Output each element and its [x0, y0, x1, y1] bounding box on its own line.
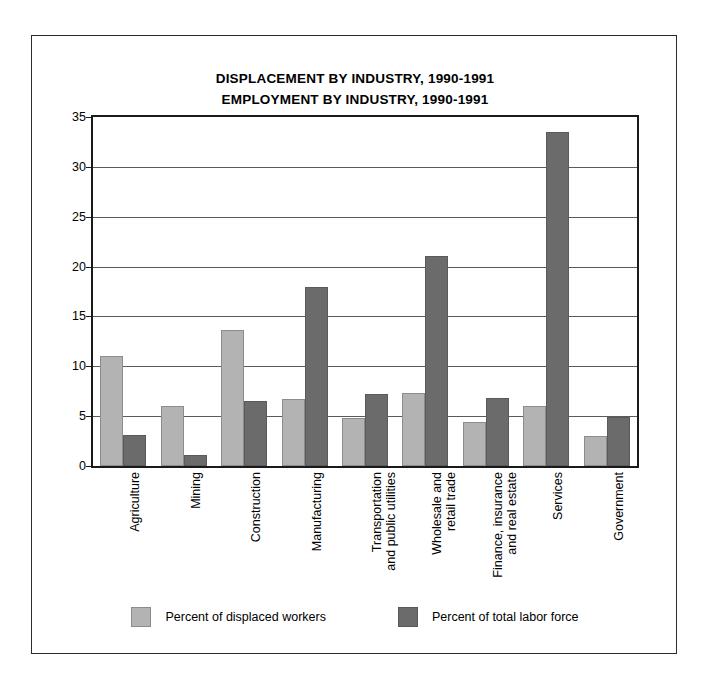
- y-axis: 05101520253035: [48, 115, 86, 468]
- bar[interactable]: [584, 436, 607, 466]
- bar[interactable]: [244, 401, 267, 466]
- bar[interactable]: [123, 435, 146, 466]
- legend-label: Percent of total labor force: [432, 610, 579, 624]
- bar[interactable]: [607, 417, 630, 466]
- legend-item[interactable]: Percent of total labor force: [398, 607, 579, 627]
- y-tick-label: 30: [56, 161, 86, 173]
- chart-title-block: DISPLACEMENT BY INDUSTRY, 1990-1991 EMPL…: [32, 68, 678, 110]
- bar-group: [221, 117, 267, 466]
- x-tick-label: Wholesale and retail trade: [430, 472, 458, 602]
- x-tick-label: Government: [612, 472, 626, 602]
- chart-outer-frame: DISPLACEMENT BY INDUSTRY, 1990-1991 EMPL…: [31, 35, 677, 654]
- bar[interactable]: [161, 406, 184, 466]
- bar[interactable]: [342, 418, 365, 466]
- x-tick-label: Construction: [249, 472, 263, 602]
- legend-item[interactable]: Percent of displaced workers: [131, 607, 326, 627]
- bar[interactable]: [100, 356, 123, 466]
- bar[interactable]: [221, 330, 244, 466]
- x-axis-labels: AgricultureMiningConstructionManufacturi…: [91, 472, 639, 602]
- y-tick-label: 20: [56, 261, 86, 273]
- bar-group: [463, 117, 509, 466]
- bar[interactable]: [305, 287, 328, 466]
- y-tick-label: 35: [56, 111, 86, 123]
- y-tick-label: 0: [56, 460, 86, 472]
- bar[interactable]: [365, 394, 388, 466]
- chart-page: DISPLACEMENT BY INDUSTRY, 1990-1991 EMPL…: [0, 0, 711, 684]
- legend-swatch-icon: [398, 607, 418, 627]
- bar[interactable]: [463, 422, 486, 466]
- y-tick-label: 5: [56, 410, 86, 422]
- x-tick-label: Transportation and public utilities: [370, 472, 398, 602]
- y-tick-label: 25: [56, 211, 86, 223]
- x-tick-label: Services: [551, 472, 565, 602]
- x-tick-label: Finance, insurance and real estate: [491, 472, 519, 602]
- bar[interactable]: [425, 256, 448, 466]
- x-tick-label: Manufacturing: [310, 472, 324, 602]
- bar-group: [342, 117, 388, 466]
- plot-frame: [91, 115, 639, 468]
- bar[interactable]: [402, 393, 425, 466]
- bar-group: [161, 117, 207, 466]
- y-tick-label: 10: [56, 360, 86, 372]
- chart-subtitle: EMPLOYMENT BY INDUSTRY, 1990-1991: [32, 89, 678, 110]
- bar[interactable]: [486, 398, 509, 466]
- bar-group: [100, 117, 146, 466]
- bar-group: [584, 117, 630, 466]
- y-tick-label: 15: [56, 310, 86, 322]
- bar-group: [282, 117, 328, 466]
- x-tick-label: Agriculture: [128, 472, 142, 602]
- bar-group: [402, 117, 448, 466]
- x-tick-label: Mining: [189, 472, 203, 602]
- legend-label: Percent of displaced workers: [165, 610, 326, 624]
- bar-group: [523, 117, 569, 466]
- plot-area: [93, 117, 637, 466]
- chart-title: DISPLACEMENT BY INDUSTRY, 1990-1991: [32, 68, 678, 89]
- bar[interactable]: [523, 406, 546, 466]
- bar[interactable]: [184, 455, 207, 466]
- bar[interactable]: [282, 399, 305, 466]
- legend-swatch-icon: [131, 607, 151, 627]
- bar[interactable]: [546, 132, 569, 466]
- chart-legend: Percent of displaced workersPercent of t…: [32, 607, 678, 627]
